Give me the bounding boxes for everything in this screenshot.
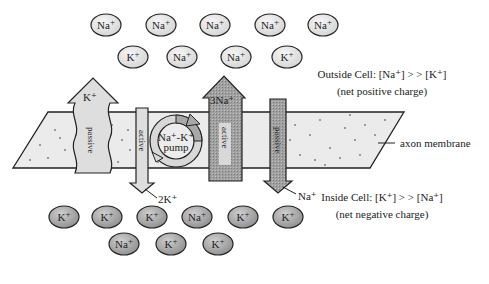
k-passive-type-label: passive	[86, 127, 96, 154]
na-active-type-label: active	[220, 127, 230, 149]
k-active-type-label: active	[137, 130, 147, 152]
outside-cell-label: Outside Cell: [Na⁺] > > [K⁺]	[318, 68, 447, 80]
membrane-label: axon membrane	[400, 137, 471, 149]
na-passive-type-label: passive	[273, 127, 283, 154]
pump-label-line2: pump	[163, 141, 189, 153]
sodium-potassium-pump-diagram: K⁺ passive active 2K⁺ Na⁺-K⁺ pump 3Na⁺ a…	[0, 0, 489, 284]
na-active-arrow: 3Na⁺ active	[203, 76, 245, 181]
k-active-ion-label: 2K⁺	[158, 193, 177, 205]
na-active-ion-label: 3Na⁺	[210, 94, 234, 106]
inside-ions: K+K+K+Na+K+K+Na+K+K+	[49, 206, 303, 255]
inside-cell-label: Inside Cell: [K⁺] > > [Na⁺]	[321, 191, 442, 203]
inside-charge-label: (net negative charge)	[336, 208, 429, 221]
k-passive-ion-label: K⁺	[83, 91, 97, 103]
na-k-pump: Na⁺-K⁺ pump	[150, 114, 202, 167]
outside-charge-label: (net positive charge)	[337, 85, 428, 98]
outside-ions: Na+Na+Na+Na+Na+K+Na+Na+K+	[91, 14, 338, 68]
na-passive-ion-label: Na⁺	[298, 190, 317, 202]
